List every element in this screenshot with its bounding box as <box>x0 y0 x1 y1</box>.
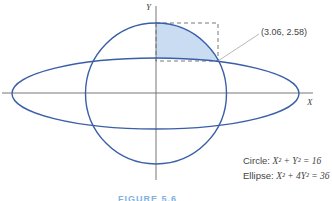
intersection-point-label: (3.06, 2.58) <box>261 27 307 37</box>
legend-circle: Circle: X² + Y² = 16 <box>243 155 321 166</box>
figure-caption: FIGURE 5.6 <box>118 194 177 201</box>
legend-ellipse: Ellipse: X² + 4Y² = 36 <box>243 170 330 181</box>
leader-line <box>218 34 259 61</box>
y-axis-label: Y <box>146 2 151 12</box>
shaded-region <box>156 23 218 61</box>
x-axis-label: X <box>307 97 313 107</box>
